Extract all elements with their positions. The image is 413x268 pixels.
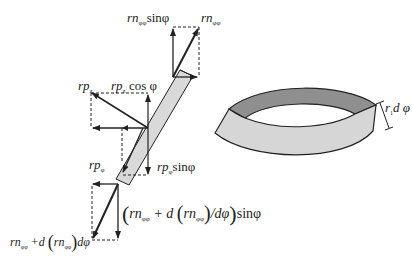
label-rp-phi-sin: rpφsinφ	[157, 159, 195, 176]
ring-element	[215, 88, 393, 155]
diagram-canvas: rnφφsinφ rnφφ rpz rpz cos φ rpφ rpφsinφ …	[0, 0, 413, 268]
label-rp-phi: rpφ	[89, 157, 105, 174]
label-top-resultant: rnφφ	[201, 10, 221, 27]
label-mid-rp-z: rpz	[78, 78, 93, 95]
label-bottom-vertical: (rnφφ + d (rnφφ)/dφ)sinφ	[122, 201, 261, 226]
mid-resultant-arrow	[92, 93, 148, 128]
top-force-group	[173, 27, 199, 77]
shell-equilibrium-diagram: rnφφsinφ rnφφ rpz rpz cos φ rpφ rpφsinφ …	[0, 0, 413, 268]
label-top-vertical: rnφφsinφ	[127, 10, 169, 27]
label-mid-rp-z-cos: rpz cos φ	[111, 78, 157, 95]
label-ring-width: r1d φ	[385, 100, 410, 116]
top-resultant-arrow	[173, 29, 198, 77]
bottom-force-group	[92, 184, 118, 240]
label-bottom-resultant: rnφφ +d (rnφφ)dφ	[10, 232, 90, 253]
bottom-resultant-arrow	[93, 184, 118, 238]
